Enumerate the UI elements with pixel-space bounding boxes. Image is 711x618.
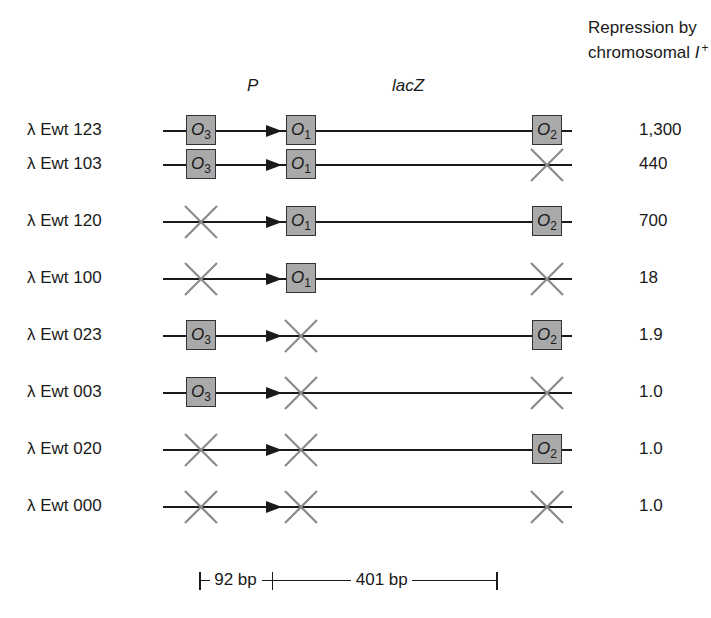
promoter-arrow-icon	[266, 125, 282, 137]
operator-subscript: 2	[550, 128, 557, 142]
construct-label: λ Ewt 003	[27, 382, 102, 402]
operator-subscript: 1	[304, 276, 311, 290]
dna-line	[163, 506, 572, 508]
construct-row: λ Ewt 020O21.0	[0, 430, 711, 470]
deleted-o1-x-icon	[282, 432, 320, 468]
promoter-arrow-icon	[266, 444, 282, 456]
repression-value: 700	[639, 211, 667, 231]
operator-o1-box: O1	[286, 115, 316, 145]
promoter-arrow-icon	[266, 216, 282, 228]
deleted-o2-x-icon	[528, 375, 566, 411]
repression-column-header: Repression by chromosomal I+	[588, 18, 709, 63]
repression-value: 1.0	[639, 382, 663, 402]
operator-subscript: 3	[204, 162, 211, 176]
dna-line	[163, 392, 572, 394]
dna-line	[163, 221, 572, 223]
lacz-label: lacZ	[392, 76, 424, 96]
operator-o2-box: O2	[532, 115, 562, 145]
operator-letter: O	[191, 120, 204, 139]
dna-line	[163, 278, 572, 280]
operator-letter: O	[191, 325, 204, 344]
operator-letter: O	[291, 211, 304, 230]
scale-line	[262, 580, 272, 582]
promoter-arrow-icon	[266, 387, 282, 399]
promoter-arrow-icon	[266, 501, 282, 513]
deleted-o1-x-icon	[282, 375, 320, 411]
deleted-o2-x-icon	[528, 261, 566, 297]
deleted-o3-x-icon	[182, 489, 220, 525]
construct-row: λ Ewt 100O118	[0, 259, 711, 299]
construct-row: λ Ewt 120O1O2700	[0, 202, 711, 242]
construct-label: λ Ewt 000	[27, 496, 102, 516]
repression-header-text: chromosomal	[588, 43, 690, 62]
repression-header-line1: Repression by	[588, 18, 709, 38]
repressor-gene-symbol: I	[695, 43, 700, 62]
operator-letter: O	[537, 211, 550, 230]
operator-letter: O	[291, 268, 304, 287]
operator-o3-box: O3	[186, 377, 216, 407]
scale-line	[273, 580, 351, 582]
operator-letter: O	[291, 154, 304, 173]
construct-row: λ Ewt 0001.0	[0, 487, 711, 527]
construct-label: λ Ewt 023	[27, 325, 102, 345]
operator-letter: O	[537, 439, 550, 458]
dna-line	[163, 449, 572, 451]
scale-line	[201, 580, 210, 582]
promoter-label: P	[247, 76, 258, 96]
operator-o2-box: O2	[532, 434, 562, 464]
operator-letter: O	[291, 120, 304, 139]
operator-letter: O	[537, 120, 550, 139]
operator-o3-box: O3	[186, 115, 216, 145]
repression-value: 1.0	[639, 496, 663, 516]
operator-o1-box: O1	[286, 206, 316, 236]
repression-value: 440	[639, 154, 667, 174]
operator-subscript: 3	[204, 333, 211, 347]
promoter-arrow-icon	[266, 330, 282, 342]
repression-value: 1,300	[639, 120, 682, 140]
repression-header-line2: chromosomal I+	[588, 38, 709, 63]
operator-o1-box: O1	[286, 149, 316, 179]
wildtype-superscript: +	[702, 41, 709, 55]
repression-value: 1.9	[639, 325, 663, 345]
operator-subscript: 1	[304, 128, 311, 142]
dna-line	[163, 164, 572, 166]
repression-value: 1.0	[639, 439, 663, 459]
operator-subscript: 2	[550, 447, 557, 461]
construct-label: λ Ewt 103	[27, 154, 102, 174]
operator-subscript: 3	[204, 390, 211, 404]
construct-row: λ Ewt 023O3O21.9	[0, 316, 711, 356]
deleted-o2-x-icon	[528, 147, 566, 183]
construct-label: λ Ewt 100	[27, 268, 102, 288]
operator-letter: O	[191, 154, 204, 173]
operator-subscript: 2	[550, 219, 557, 233]
scale-bar: 92 bp 401 bp	[199, 570, 498, 590]
operator-o2-box: O2	[532, 320, 562, 350]
dna-line	[163, 335, 572, 337]
construct-row: λ Ewt 003O31.0	[0, 373, 711, 413]
promoter-arrow-icon	[266, 159, 282, 171]
deleted-o3-x-icon	[182, 432, 220, 468]
repression-value: 18	[639, 268, 658, 288]
construct-label: λ Ewt 123	[27, 120, 102, 140]
scale-segment-92bp: 92 bp	[214, 570, 257, 589]
dna-line	[163, 130, 572, 132]
operator-subscript: 3	[204, 128, 211, 142]
operator-subscript: 1	[304, 162, 311, 176]
scale-line	[412, 580, 496, 582]
scale-tick-right	[496, 572, 498, 590]
construct-row: λ Ewt 103O3O1440	[0, 145, 711, 185]
deleted-o3-x-icon	[182, 261, 220, 297]
operator-o1-box: O1	[286, 263, 316, 293]
deleted-o1-x-icon	[282, 489, 320, 525]
scale-segment-401bp: 401 bp	[356, 570, 408, 589]
operator-subscript: 1	[304, 219, 311, 233]
deleted-o2-x-icon	[528, 489, 566, 525]
operator-o2-box: O2	[532, 206, 562, 236]
deleted-o3-x-icon	[182, 204, 220, 240]
promoter-arrow-icon	[266, 273, 282, 285]
operator-o3-box: O3	[186, 149, 216, 179]
operator-letter: O	[537, 325, 550, 344]
operator-subscript: 2	[550, 333, 557, 347]
construct-label: λ Ewt 020	[27, 439, 102, 459]
operator-letter: O	[191, 382, 204, 401]
